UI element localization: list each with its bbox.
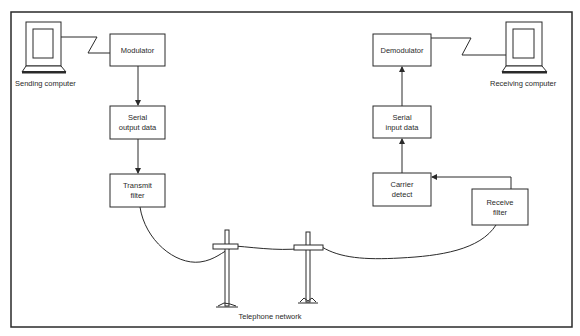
serial-input-data-box: Serial input data — [373, 106, 431, 138]
carrier-detect-label-line1: Carrier — [391, 180, 414, 189]
receive-filter-label-line2: filter — [493, 208, 508, 217]
diagram-frame — [11, 12, 572, 327]
serial-output-data-box: Serial output data — [110, 106, 165, 139]
receive-filter-label-line1: Receive — [486, 198, 513, 207]
serial-link-receiving — [431, 38, 506, 55]
receive-filter-box: Receive filter — [472, 189, 528, 225]
modulator-label: Modulator — [121, 46, 155, 55]
transmit-filter-label-line2: filter — [130, 191, 145, 200]
carrier-detect-label-line2: detect — [392, 190, 413, 199]
demodulator-box: Demodulator — [373, 34, 431, 66]
carrier-detect-box: Carrier detect — [373, 173, 431, 206]
transmit-filter-label-line1: Transmit — [123, 181, 153, 190]
serial-output-label-line2: output data — [119, 123, 157, 132]
telephone-pole-icon — [294, 232, 323, 303]
arrow-receive-filter-to-carrier-detect — [432, 177, 511, 189]
telephone-wire-left — [140, 207, 233, 262]
demodulator-label: Demodulator — [381, 46, 424, 55]
telephone-pole-icon — [213, 230, 238, 307]
telephone-network-label: Telephone network — [239, 312, 302, 321]
serial-input-label-line1: Serial — [392, 113, 412, 122]
serial-input-label-line2: input data — [386, 123, 420, 132]
receiving-computer-icon — [502, 22, 547, 74]
sending-computer-label: Sending computer — [15, 79, 76, 88]
serial-link-sending — [61, 37, 110, 53]
modem-communication-diagram: Sending computer Modulator Serial output… — [0, 0, 580, 336]
transmit-filter-box: Transmit filter — [110, 174, 165, 207]
serial-output-label-line1: Serial — [128, 113, 148, 122]
receiving-computer-label: Receiving computer — [490, 79, 557, 88]
modulator-box: Modulator — [110, 34, 165, 66]
telephone-wire-right — [322, 225, 496, 259]
sending-computer-icon — [22, 22, 66, 74]
